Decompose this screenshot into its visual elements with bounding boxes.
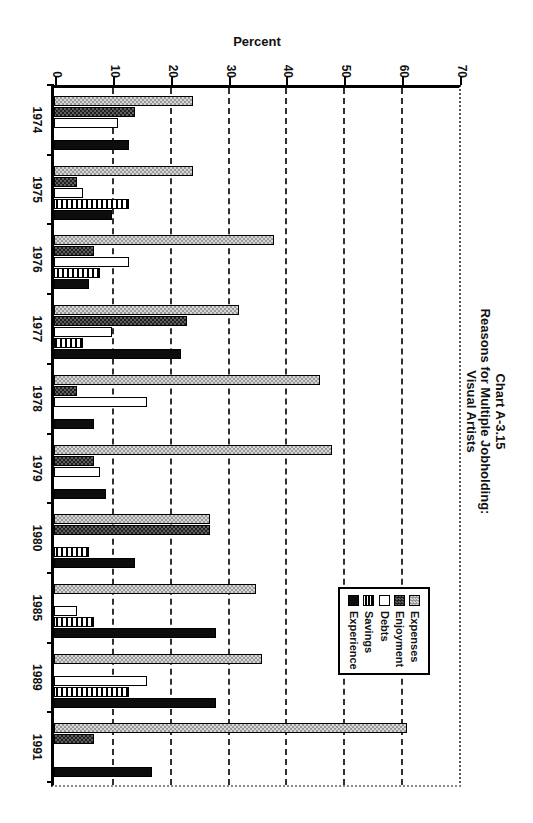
year-boundary-tick-6	[47, 502, 54, 504]
gridline-40-percent	[285, 88, 287, 785]
bar-1980-enjoyment	[54, 525, 210, 535]
bar-1976-expenses	[54, 235, 274, 245]
bar-1991-enjoyment	[54, 734, 95, 744]
year-label-1974: 1974	[30, 85, 44, 155]
gridline-60-percent	[401, 88, 403, 785]
bar-1976-enjoyment	[54, 246, 95, 256]
legend-label-debts: Debts	[377, 611, 390, 642]
bar-1975-debts	[54, 188, 83, 198]
legend-label-enjoyment: Enjoyment	[393, 611, 406, 667]
year-label-1989: 1989	[30, 643, 44, 713]
bar-1975-enjoyment	[54, 177, 77, 187]
percent-tick-label-0: 0	[50, 22, 64, 78]
bar-1975-expenses	[54, 166, 193, 176]
legend-item-savings: Savings	[362, 595, 375, 669]
bar-1976-savings	[54, 268, 100, 278]
bar-1978-experience	[54, 419, 95, 429]
bar-1977-debts	[54, 327, 112, 337]
chart-title-line3: Visual Artists	[463, 0, 478, 823]
bar-1979-expenses	[54, 445, 332, 455]
percent-tick-label-10: 10	[108, 22, 122, 78]
year-boundary-tick-4	[47, 363, 54, 365]
bar-1980-savings	[54, 547, 89, 557]
year-label-1991: 1991	[30, 712, 44, 782]
legend-item-enjoyment: Enjoyment	[393, 595, 406, 669]
year-boundary-tick-7	[47, 572, 54, 574]
bar-1976-debts	[54, 257, 129, 267]
percent-tick-label-70: 70	[455, 22, 469, 78]
legend-swatch-enjoyment	[394, 595, 405, 606]
percent-tick-label-60: 60	[397, 22, 411, 78]
chart-title-line2: Reasons for Multiple Jobholding:	[478, 0, 493, 823]
legend-item-expenses: Expenses	[408, 595, 421, 669]
bar-1989-experience	[54, 698, 216, 708]
chart-title-line1: Chart A-3.15	[492, 0, 507, 823]
year-boundary-tick-3	[47, 293, 54, 295]
bar-1980-expenses	[54, 514, 210, 524]
bar-1980-experience	[54, 558, 135, 568]
bar-1978-enjoyment	[54, 386, 77, 396]
bar-1974-experience	[54, 140, 129, 150]
year-boundary-tick-9	[47, 711, 54, 713]
bar-1977-experience	[54, 349, 181, 359]
legend-swatch-debts	[379, 595, 390, 606]
scanned-page: { "title": { "line1": "Chart A-3.15", "l…	[0, 0, 533, 823]
legend-label-experience: Experience	[347, 611, 360, 670]
gridline-30-percent	[228, 88, 230, 785]
legend-swatch-savings	[363, 595, 374, 606]
percent-tick-label-20: 20	[166, 22, 180, 78]
year-boundary-tick-10	[47, 781, 54, 783]
bar-1979-debts	[54, 467, 100, 477]
bar-1989-debts	[54, 676, 147, 686]
bar-1985-savings	[54, 617, 95, 627]
bar-1978-debts	[54, 397, 147, 407]
legend-item-experience: Experience	[347, 595, 360, 669]
bar-1977-savings	[54, 338, 83, 348]
bar-1975-savings	[54, 199, 129, 209]
percent-tick-label-40: 40	[281, 22, 295, 78]
bar-1991-expenses	[54, 723, 407, 733]
bar-1985-debts	[54, 606, 77, 616]
legend-item-debts: Debts	[377, 595, 390, 669]
year-boundary-tick-8	[47, 642, 54, 644]
bar-1977-enjoyment	[54, 316, 187, 326]
bar-1977-expenses	[54, 305, 239, 315]
year-label-1985: 1985	[30, 573, 44, 643]
year-boundary-tick-1	[47, 154, 54, 156]
legend-label-savings: Savings	[362, 611, 375, 653]
percent-tick-label-50: 50	[339, 22, 353, 78]
bar-1989-savings	[54, 687, 129, 697]
legend-label-expenses: Expenses	[408, 611, 421, 662]
year-label-1980: 1980	[30, 503, 44, 573]
gridline-20-percent	[170, 88, 172, 785]
bar-1979-experience	[54, 489, 106, 499]
year-label-1978: 1978	[30, 364, 44, 434]
legend-box: ExpensesEnjoymentDebtsSavingsExperience	[338, 587, 430, 675]
year-boundary-tick-0	[47, 84, 54, 86]
bar-1975-experience	[54, 210, 112, 220]
bar-1989-expenses	[54, 654, 262, 664]
percent-tick-label-30: 30	[224, 22, 238, 78]
gridline-50-percent	[343, 88, 345, 785]
plot-area	[51, 85, 461, 787]
year-label-1975: 1975	[30, 155, 44, 225]
chart-title: Chart A-3.15 Reasons for Multiple Jobhol…	[463, 0, 507, 823]
year-label-1976: 1976	[30, 224, 44, 294]
bar-1978-expenses	[54, 375, 320, 385]
bar-1974-debts	[54, 118, 118, 128]
year-label-1979: 1979	[30, 434, 44, 504]
bar-1991-experience	[54, 767, 152, 777]
bar-1976-experience	[54, 279, 89, 289]
legend-swatch-experience	[348, 595, 359, 606]
legend-swatch-expenses	[409, 595, 420, 606]
year-boundary-tick-2	[47, 223, 54, 225]
bar-1985-experience	[54, 628, 216, 638]
bar-1974-enjoyment	[54, 107, 135, 117]
year-label-1977: 1977	[30, 294, 44, 364]
year-boundary-tick-5	[47, 433, 54, 435]
bar-1979-enjoyment	[54, 456, 95, 466]
bar-1974-expenses	[54, 96, 193, 106]
rotated-chart-canvas: Chart A-3.15 Reasons for Multiple Jobhol…	[0, 0, 533, 823]
bar-1985-expenses	[54, 584, 257, 594]
